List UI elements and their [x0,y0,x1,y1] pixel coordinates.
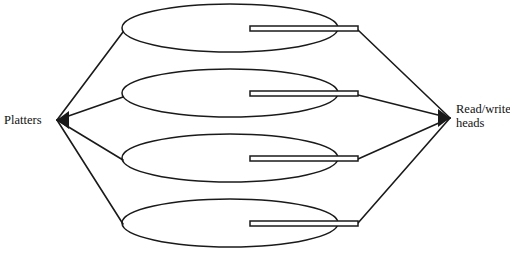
read-write-heads-label-line2: heads [456,116,485,130]
arrowhead-group [57,109,450,129]
arm-3 [250,156,358,161]
left-connector-4 [57,120,123,224]
platters-label: Platters [4,113,42,127]
left-connector-group [57,32,123,224]
right-connector-group [358,30,450,223]
arm-1 [250,26,358,31]
right-connector-2 [358,95,450,118]
head-arm-group [250,26,358,226]
right-connector-1 [358,30,450,118]
left-arrowhead [57,111,69,129]
hdd-schematic-svg: Platters Read/write heads [0,0,510,256]
platter-group [122,4,338,247]
hdd-diagram-canvas: Platters Read/write heads [0,0,510,256]
left-connector-1 [57,32,123,120]
right-connector-4 [358,118,450,223]
read-write-heads-label-line1: Read/write [456,102,510,116]
arm-2 [250,91,358,96]
arm-4 [250,221,358,226]
right-connector-3 [358,118,450,159]
